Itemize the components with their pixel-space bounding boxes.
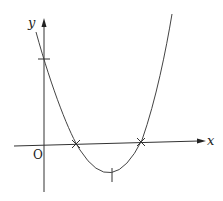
y-axis-label: y [27,15,36,30]
x-axis [14,141,199,146]
parabola-diagram: y x O [0,0,223,201]
x-axis-arrow-icon [197,139,206,144]
y-axis-arrow-icon [42,18,47,27]
origin-label: O [33,148,43,162]
parabola-curve [36,14,172,173]
x-axis-label: x [207,133,215,148]
